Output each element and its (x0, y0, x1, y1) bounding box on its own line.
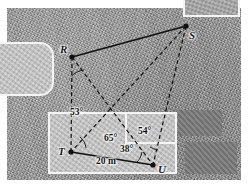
angle-label-65: 65° (104, 134, 117, 144)
dark-patch-lower (185, 142, 237, 174)
point-label-T: T (58, 146, 65, 157)
dark-patch-upper (178, 110, 222, 136)
point-label-U: U (158, 164, 166, 175)
figure-canvas: R S T U 53° 65° 38° 54° 20 m (0, 0, 248, 186)
point-label-R: R (60, 44, 67, 55)
point-label-S: S (189, 30, 195, 41)
left-building (0, 42, 54, 96)
distance-label-TU: 20 m (96, 157, 116, 167)
angle-label-54: 54° (138, 127, 151, 137)
top-right-building (183, 0, 240, 17)
angle-label-38: 38° (120, 145, 133, 155)
angle-label-53: 53° (70, 108, 83, 118)
